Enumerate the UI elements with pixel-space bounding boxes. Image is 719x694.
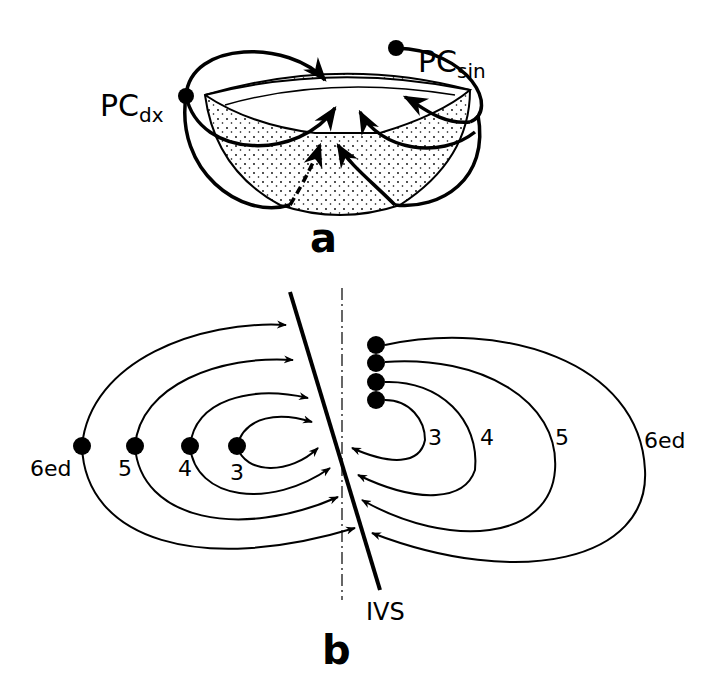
left-node-6ed bbox=[73, 437, 91, 455]
right-label-3: 3 bbox=[428, 425, 442, 450]
diagram-canvas: PCdx PCsin a 6ed 5 4 3 bbox=[0, 0, 719, 694]
left-label-6ed: 6ed bbox=[30, 456, 72, 481]
left-node-3 bbox=[228, 437, 246, 455]
right-node-4 bbox=[367, 373, 385, 391]
right-label-6ed: 6ed bbox=[644, 428, 686, 453]
pc-dx-label: PCdx bbox=[100, 88, 164, 127]
left-node-4 bbox=[181, 437, 199, 455]
panel-a: PCdx PCsin a bbox=[100, 40, 486, 261]
panel-a-label: a bbox=[310, 215, 337, 261]
pc-sin-label: PCsin bbox=[418, 44, 486, 83]
ivs-label: IVS bbox=[366, 598, 405, 626]
right-node-3 bbox=[367, 391, 385, 409]
right-node-5 bbox=[367, 354, 385, 372]
right-loops bbox=[352, 338, 645, 562]
right-label-4: 4 bbox=[480, 425, 494, 450]
right-node-6ed bbox=[367, 336, 385, 354]
right-label-5: 5 bbox=[555, 425, 569, 450]
ivs-line bbox=[290, 292, 380, 590]
left-label-5: 5 bbox=[118, 456, 132, 481]
panel-b-label: b bbox=[322, 627, 351, 673]
left-label-3: 3 bbox=[230, 460, 244, 485]
left-label-4: 4 bbox=[178, 456, 192, 481]
left-node-5 bbox=[126, 437, 144, 455]
panel-b: 6ed 5 4 3 3 4 5 6ed IVS b bbox=[30, 288, 686, 673]
left-loops bbox=[82, 325, 355, 549]
right-node-stack bbox=[367, 336, 385, 409]
